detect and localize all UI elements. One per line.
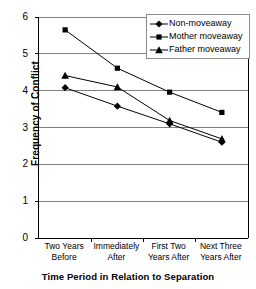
y-axis-tick-label: 0 [0, 233, 28, 243]
legend-item: Non-moveaway [149, 17, 246, 30]
legend-item-label: Mother moveaway [169, 31, 243, 42]
x-axis-tick-label-line1: First Two [151, 241, 185, 251]
x-axis-tick-label-line1: Immediately [93, 241, 139, 251]
data-point-square-marker [219, 110, 224, 115]
x-axis-tick-label-line1: Next Three [200, 241, 242, 251]
y-axis-tick-label: 3 [0, 123, 28, 133]
square-marker-icon [149, 31, 169, 43]
data-point-triangle-marker [218, 135, 226, 142]
line-chart: Frequency of Conflict 0123456 Two YearsB… [0, 0, 256, 289]
data-point-triangle-marker [166, 117, 174, 124]
data-point-square-marker [167, 90, 172, 95]
triangle-marker-icon [149, 44, 169, 56]
x-axis-tick-label: Next ThreeYears After [190, 241, 252, 262]
y-axis-tick-label: 2 [0, 159, 28, 169]
legend-item-label: Non-moveaway [169, 18, 232, 29]
data-point-square-marker [156, 34, 161, 39]
series-line [65, 76, 222, 139]
y-axis-tick-labels: 0123456 [0, 0, 34, 289]
y-axis-tick-label: 4 [0, 86, 28, 96]
data-point-triangle-marker [61, 72, 69, 79]
data-point-diamond-marker [155, 20, 162, 27]
legend: Non-moveaway Mother moveaway Father move… [146, 14, 250, 59]
y-axis-tick-label: 6 [0, 12, 28, 22]
series-line [65, 88, 222, 143]
legend-item: Mother moveaway [149, 30, 246, 43]
x-axis-tick-labels: Two YearsBeforeImmediatelyAfterFirst Two… [30, 241, 256, 269]
data-point-diamond-marker [114, 103, 121, 110]
x-axis-title: Time Period in Relation to Separation [0, 271, 256, 282]
legend-item: Father moveaway [149, 43, 246, 56]
diamond-marker-icon [149, 18, 169, 30]
legend-item-label: Father moveaway [169, 44, 241, 55]
data-point-square-marker [63, 27, 68, 32]
data-point-square-marker [115, 66, 120, 71]
x-axis-tick-label-line1: Two Years [45, 241, 84, 251]
y-axis-tick-label: 5 [0, 49, 28, 59]
y-axis-tick-label: 1 [0, 196, 28, 206]
x-axis-tick-label-line2: Years After [190, 252, 252, 263]
